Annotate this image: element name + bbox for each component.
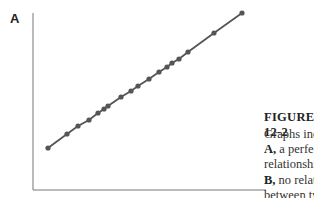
data-point (239, 10, 244, 15)
data-point (211, 30, 216, 35)
data-point (75, 123, 80, 128)
data-point (86, 117, 91, 122)
data-point (185, 49, 190, 54)
data-point (164, 64, 169, 69)
caption-line: between two (264, 188, 314, 198)
data-point (176, 56, 181, 61)
data-point (156, 69, 161, 74)
caption-line: A, a perfect (264, 142, 314, 157)
caption-line: relationship and (264, 157, 314, 172)
data-point (169, 60, 174, 65)
data-point (146, 76, 151, 81)
data-point (128, 88, 133, 93)
data-point (64, 131, 69, 136)
figure-caption: Graphs indicating A, a perfect relations… (264, 127, 314, 198)
data-point (135, 83, 140, 88)
data-point (45, 145, 50, 150)
caption-line: Graphs indicating (264, 127, 314, 142)
data-point (95, 110, 100, 115)
data-point (118, 94, 123, 99)
data-point (105, 103, 110, 108)
caption-line: B, no relationship (264, 173, 314, 188)
